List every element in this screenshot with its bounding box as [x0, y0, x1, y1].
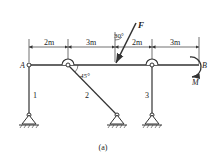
label-a: A — [19, 61, 25, 70]
hinge-pin-3 — [150, 63, 154, 67]
figure-caption: (a) — [99, 143, 108, 152]
pin-support-2-icon — [107, 113, 127, 128]
bar-3-label: 3 — [145, 91, 149, 100]
moment-m-arrow-icon — [190, 57, 201, 77]
dim-label-3: 2m — [132, 38, 143, 47]
bar-2-label: 2 — [85, 91, 89, 100]
pin-support-3-icon — [142, 113, 162, 128]
hinge-pin-2 — [66, 63, 70, 67]
node-a — [27, 63, 31, 67]
dim-label-4: 3m — [170, 38, 181, 47]
angle-arc-45-icon — [75, 65, 78, 72]
force-label: F — [137, 20, 144, 30]
dim-label-1: 2m — [44, 38, 55, 47]
bar-2 — [68, 65, 117, 115]
angle-label-30: 30° — [114, 32, 124, 40]
dim-label-2: 3m — [86, 38, 97, 47]
pin-support-1-icon — [19, 113, 39, 128]
angle-label-45: 45° — [80, 72, 90, 80]
bar-1-label: 1 — [33, 91, 37, 100]
beam-diagram: 2m 3m 2m 3m F 30° 45° M A B — [0, 0, 218, 163]
label-b: B — [202, 61, 207, 70]
moment-label: M — [191, 78, 200, 87]
